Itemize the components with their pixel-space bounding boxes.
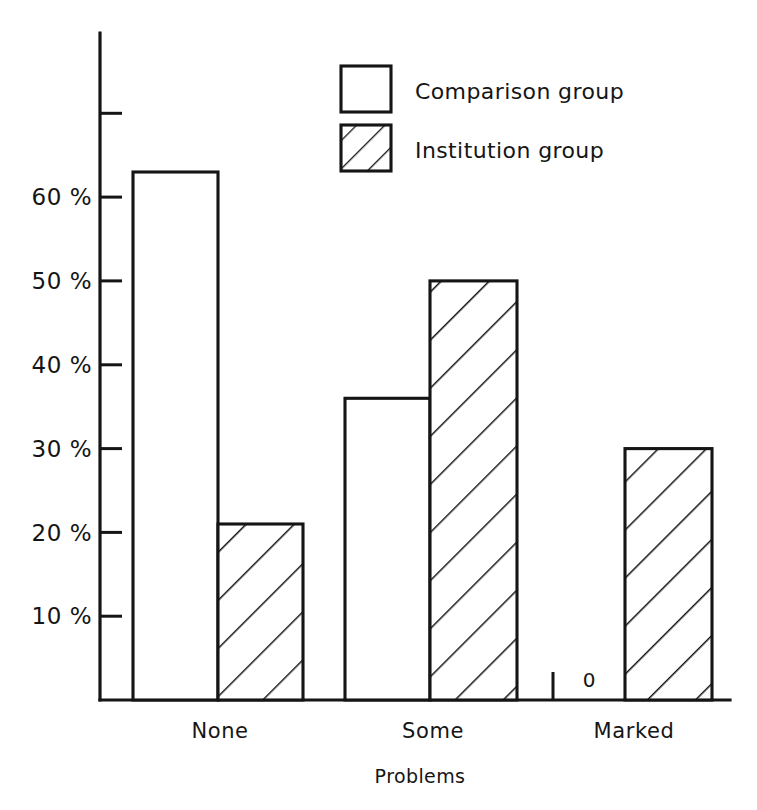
y-tick-label-50: 50 % (32, 268, 92, 294)
legend-swatch-open (341, 66, 391, 112)
legend-label-institution-group: Institution group (415, 138, 604, 163)
x-axis-title: Problems (375, 765, 466, 787)
bar-group-some (345, 281, 517, 700)
bar-chart-figure: 60 % 50 % 40 % 30 % 20 % 10 % 0 None Som… (0, 0, 757, 810)
bar-institution-none (218, 524, 303, 700)
legend-item-comparison-group: Comparison group (341, 66, 624, 112)
y-tick-label-40: 40 % (32, 352, 92, 378)
legend-label-comparison-group: Comparison group (415, 79, 624, 104)
x-tick-label-none: None (191, 719, 248, 743)
y-tick-label-20: 20 % (32, 520, 92, 546)
chart-legend: Comparison group Institution group (341, 66, 624, 171)
bar-institution-some (430, 281, 517, 700)
y-tick-label-60: 60 % (32, 184, 92, 210)
y-axis-tick-labels: 60 % 50 % 40 % 30 % 20 % 10 % (32, 184, 92, 629)
x-axis-tick-labels: None Some Marked (191, 719, 674, 743)
y-tick-label-10: 10 % (32, 603, 92, 629)
chart-canvas: 60 % 50 % 40 % 30 % 20 % 10 % 0 None Som… (0, 0, 757, 810)
legend-item-institution-group: Institution group (341, 125, 604, 171)
y-tick-label-30: 30 % (32, 436, 92, 462)
x-tick-label-marked: Marked (594, 719, 675, 743)
bar-institution-marked (625, 449, 712, 700)
x-tick-label-some: Some (402, 719, 464, 743)
bar-group-none (133, 172, 303, 700)
bar-comparison-some (345, 398, 430, 700)
legend-swatch-hatched (341, 125, 391, 171)
zero-value-annotation: 0 (583, 668, 596, 692)
bar-group-marked: 0 (553, 449, 712, 700)
bar-comparison-none (133, 172, 218, 700)
